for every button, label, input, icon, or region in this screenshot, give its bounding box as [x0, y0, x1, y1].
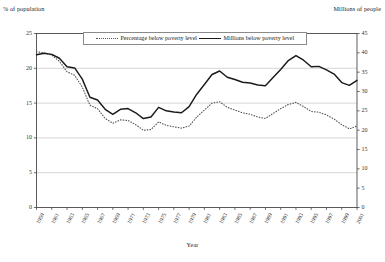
y-axis-right-tick: 20	[362, 127, 382, 133]
series-line-percentage	[37, 52, 358, 131]
y-axis-right-tick: 35	[362, 69, 382, 75]
y-axis-left-tick: 10	[14, 134, 32, 140]
y-axis-right-title: Millions of people	[333, 5, 381, 12]
y-axis-right-tick: 40	[362, 49, 382, 55]
gridlines	[37, 34, 358, 173]
x-axis-title: Year	[0, 241, 385, 248]
y-axis-right-tick: 15	[362, 146, 382, 152]
y-axis-left-tick: 20	[14, 65, 32, 71]
y-axis-right-tick: 5	[362, 185, 382, 191]
legend-item-millions: Millions below poverty level	[199, 35, 294, 41]
legend-label-millions: Millions below poverty level	[224, 35, 295, 41]
y-axis-right-tick: 45	[362, 30, 382, 36]
y-axis-right-tick: 25	[362, 107, 382, 113]
plot-frame	[37, 34, 358, 208]
solid-line-swatch-icon	[199, 38, 221, 39]
y-axis-right-tick: 10	[362, 165, 382, 171]
legend-item-percentage: Percentage below poverty level	[96, 35, 197, 41]
y-axis-left-tick: 5	[14, 169, 32, 175]
y-axis-left-tick: 15	[14, 100, 32, 106]
axis-ticks	[34, 34, 360, 210]
legend-label-percentage: Percentage below poverty level	[120, 35, 197, 41]
y-axis-left-tick: 25	[14, 30, 32, 36]
series-layer	[37, 52, 358, 131]
series-line-millions	[37, 53, 358, 118]
y-axis-right-tick: 0	[362, 204, 382, 210]
y-axis-right-tick: 30	[362, 88, 382, 94]
y-axis-left-title: % of population	[3, 5, 44, 12]
dotted-line-swatch-icon	[96, 38, 118, 39]
y-axis-left-tick: 0	[14, 204, 32, 210]
chart-legend: Percentage below poverty level Millions …	[83, 32, 307, 45]
